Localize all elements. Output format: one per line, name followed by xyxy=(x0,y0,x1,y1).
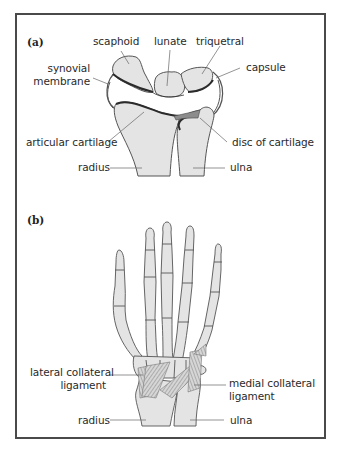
label-radius-a: radius xyxy=(78,161,110,173)
thumb-bones xyxy=(113,250,142,360)
label-capsule: capsule xyxy=(246,61,286,73)
label-synovial-line1: synovial xyxy=(44,62,90,74)
index-finger-bones xyxy=(144,228,158,360)
label-medial-collateral-line2: ligament xyxy=(229,390,275,402)
label-synovial-line2: membrane xyxy=(32,75,90,87)
triquetral-bone xyxy=(181,67,213,92)
radius-bone-a xyxy=(114,102,180,176)
label-medial-collateral-line1: medial collateral xyxy=(229,377,315,389)
scaphoid-bone xyxy=(113,56,153,92)
label-lunate: lunate xyxy=(154,35,187,47)
panel-b-label: (b) xyxy=(27,214,44,226)
label-lateral-collateral-line2: ligament xyxy=(30,379,106,391)
middle-finger-bones xyxy=(161,222,173,360)
label-ulna-a: ulna xyxy=(230,161,252,173)
lunate-bone xyxy=(154,72,184,97)
label-triquetral: triquetral xyxy=(196,35,244,47)
panel-b-hand-skeleton xyxy=(113,222,222,426)
medial-collateral-ligament-shape xyxy=(188,350,202,392)
label-articular-cartilage: articular cartilage xyxy=(26,136,117,148)
label-disc-of-cartilage: disc of cartilage xyxy=(232,136,314,148)
label-ulna-b: ulna xyxy=(230,414,252,426)
panel-a-label: (a) xyxy=(27,36,44,48)
ring-finger-bones xyxy=(173,226,194,362)
label-radius-b: radius xyxy=(78,414,110,426)
label-lateral-collateral-line1: lateral collateral xyxy=(30,366,106,378)
panel-a-wrist-section xyxy=(93,46,240,176)
label-scaphoid: scaphoid xyxy=(93,35,139,47)
